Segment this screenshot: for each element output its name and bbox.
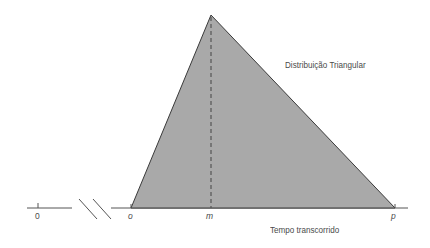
tick-label-o: o [128, 211, 133, 221]
tick-label-p: p [391, 211, 396, 221]
tick-label-m: m [206, 211, 213, 221]
triangular-distribution-diagram [0, 0, 430, 248]
diagram-title: Distribuição Triangular [285, 60, 366, 70]
tick-label-zero: 0 [35, 211, 40, 221]
axis-break-mark-2 [93, 199, 111, 219]
axis-break-mark-1 [79, 199, 97, 219]
triangle-shape [131, 15, 395, 208]
x-axis-label: Tempo transcorrido [270, 225, 339, 235]
